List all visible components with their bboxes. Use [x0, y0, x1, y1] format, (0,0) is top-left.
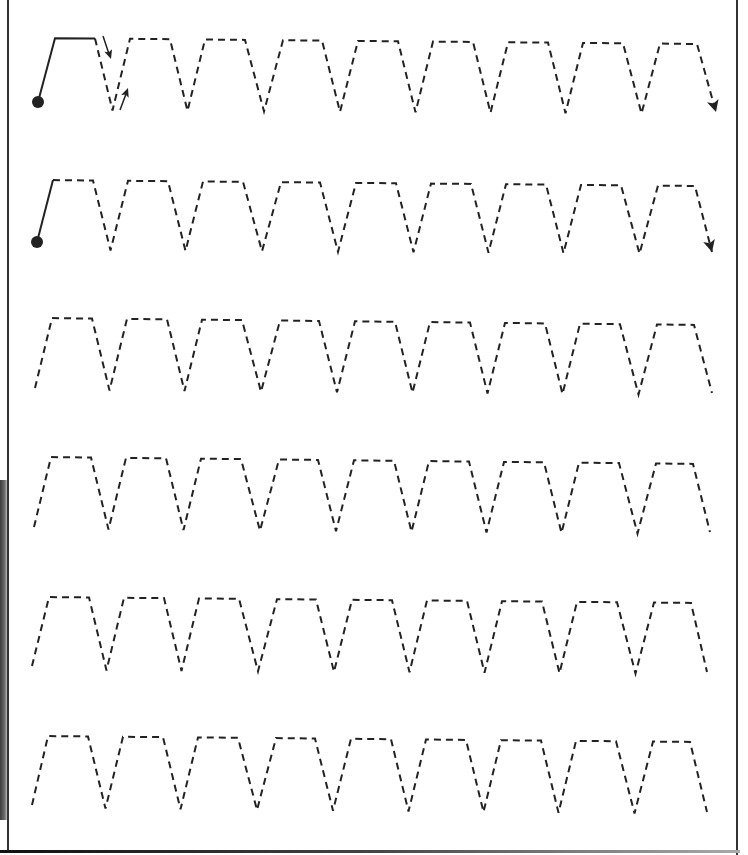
start-dot-icon — [32, 96, 44, 108]
up-arrow-icon — [121, 87, 132, 98]
dashed-trace-path — [35, 318, 712, 394]
tracing-row-4 — [34, 457, 710, 533]
tracing-worksheet — [0, 0, 748, 855]
end-arrow-icon — [707, 99, 722, 114]
dashed-trace-path — [32, 597, 707, 674]
tracing-row-5 — [32, 597, 707, 674]
dashed-trace-path — [34, 457, 710, 533]
up-direction-line — [120, 94, 126, 110]
tracing-row-2 — [31, 180, 718, 254]
start-dot-icon — [31, 236, 43, 248]
dashed-trace-path — [95, 39, 716, 114]
down-direction-line — [103, 36, 109, 54]
dashed-trace-path — [53, 180, 712, 254]
solid-demo-stroke — [38, 38, 95, 102]
solid-demo-stroke — [37, 180, 53, 242]
tracing-row-1 — [32, 36, 722, 114]
tracing-row-6 — [32, 736, 707, 813]
end-arrow-icon — [703, 239, 718, 254]
dashed-trace-path — [32, 736, 707, 813]
tracing-row-3 — [35, 318, 712, 394]
down-arrow-icon — [104, 49, 114, 60]
